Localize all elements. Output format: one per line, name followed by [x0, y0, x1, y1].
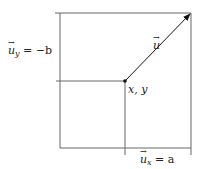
label-uy: uy = −b → — [8, 38, 52, 58]
label-ux: ux = a → — [140, 147, 175, 167]
svg-text:→: → — [8, 38, 15, 47]
svg-text:→: → — [153, 33, 160, 42]
label-point: x, y — [128, 83, 148, 96]
svg-text:→: → — [140, 147, 147, 156]
vector-diagram: uy = −b → u → x, y ux = a → — [0, 0, 199, 169]
label-u: u → — [153, 33, 160, 52]
origin-point — [123, 79, 127, 83]
